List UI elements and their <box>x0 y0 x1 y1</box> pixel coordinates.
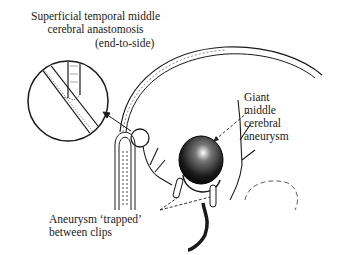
trapped-label: Aneurysm ‘trapped’ between clips <box>49 213 142 239</box>
anastomosis-label: Superficial temporal middle cerebral ana… <box>18 10 173 36</box>
end-to-side-label: (end-to-side) <box>95 37 154 50</box>
temporal-artery <box>115 132 135 210</box>
aneurysm-label-line4: aneurysm <box>244 130 289 143</box>
aneurysm-arrowhead <box>213 136 219 142</box>
aneurysm-label-line2: middle <box>244 104 289 117</box>
trapped-label-line1: Aneurysm ‘trapped’ <box>49 213 142 226</box>
brain-contour <box>245 181 298 210</box>
trapped-label-line2: between clips <box>49 226 142 239</box>
aneurysm-label-line1: Giant <box>244 91 289 104</box>
aneurysm-label: Giant middle cerebral aneurysm <box>244 91 289 143</box>
anastomosis-label-line1: Superficial temporal middle <box>18 10 173 23</box>
giant-aneurysm <box>179 136 223 184</box>
aneurysm-label-line3: cerebral <box>244 117 289 130</box>
anastomosis-label-line2: cerebral anastomosis <box>18 23 173 36</box>
magnified-inset <box>28 55 108 141</box>
skull-arc <box>120 47 322 132</box>
